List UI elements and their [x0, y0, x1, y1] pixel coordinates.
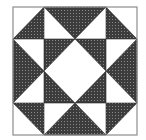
quilt-block-diagram	[0, 0, 146, 140]
